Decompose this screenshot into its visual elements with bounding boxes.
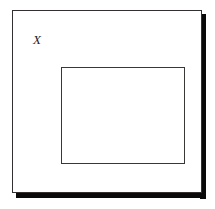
- outer-set-label: X: [33, 33, 41, 46]
- inner-set-rectangle: [61, 67, 185, 164]
- set-diagram-figure: X: [0, 0, 215, 209]
